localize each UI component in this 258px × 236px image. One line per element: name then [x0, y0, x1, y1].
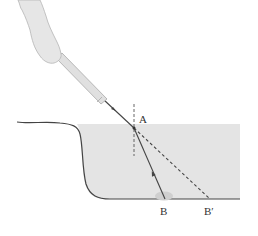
diagram-canvas	[0, 0, 258, 236]
label-point-a: A	[139, 113, 147, 125]
water-region	[77, 124, 240, 199]
refraction-diagram: A B B′	[0, 0, 258, 236]
hand	[18, 0, 61, 63]
point-a-dot	[133, 127, 136, 130]
flashlight	[56, 53, 107, 104]
incident-ray	[104, 100, 134, 128]
label-point-b-prime: B′	[204, 205, 214, 217]
label-point-b: B	[160, 205, 167, 217]
